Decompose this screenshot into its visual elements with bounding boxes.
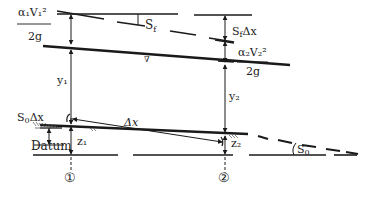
energy-diagram: Sf ∇ S0 <box>0 0 373 202</box>
reach-length-label: Δx <box>123 116 139 129</box>
head-loss-label: SfΔx <box>232 25 257 39</box>
section-2-marker: ② <box>218 170 230 185</box>
velocity-head-1-numerator: α₁V₁² <box>18 6 47 19</box>
velocity-head-2-denominator: 2g <box>246 65 260 78</box>
bed-slope-arc <box>293 143 296 155</box>
water-surface-symbol: ∇ <box>144 55 150 64</box>
reach-length-arrow <box>67 114 223 146</box>
elevation-1-label: z₁ <box>77 135 87 148</box>
velocity-head-2-numerator: α₂V₂² <box>238 46 267 59</box>
depth-2-label: y₂ <box>228 90 240 103</box>
section-1-marker: ① <box>64 170 76 185</box>
datum-label: Datum <box>31 139 72 153</box>
depth-1-label: y₁ <box>56 74 68 87</box>
velocity-head-1-denominator: 2g <box>28 30 42 43</box>
friction-slope-label: Sf <box>145 18 157 34</box>
elevation-2-label: z₂ <box>231 137 241 150</box>
horizontal-reference-line <box>57 14 252 15</box>
bed-drop-label: S0Δx <box>17 111 45 125</box>
friction-slope-indicator: Sf <box>138 14 157 34</box>
